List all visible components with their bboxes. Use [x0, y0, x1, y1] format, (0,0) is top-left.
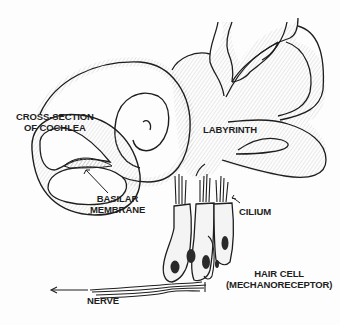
inner-ear-diagram: CROSS-SECTION OF COCHLEA BASILAR MEMBRAN…: [0, 0, 340, 325]
hair-cell-label-line1: HAIR CELL: [226, 268, 332, 279]
basilar-membrane-label: BASILAR MEMBRANE: [90, 193, 145, 215]
labyrinth-drawing: [172, 18, 327, 179]
cross-section-label-line1: CROSS-SECTION: [16, 111, 94, 122]
nerve-label: NERVE: [87, 295, 119, 306]
labyrinth-label: LABYRINTH: [203, 124, 257, 135]
basilar-label-line1: BASILAR: [90, 193, 145, 204]
cilium-label: CILIUM: [239, 206, 271, 217]
hair-cell-label-line2: (MECHANORECEPTOR): [226, 279, 332, 290]
nerve-drawing: [51, 282, 206, 298]
hair-cell-label: HAIR CELL (MECHANORECEPTOR): [226, 268, 332, 290]
cross-section-of-cochlea-label: CROSS-SECTION OF COCHLEA: [16, 111, 94, 133]
basilar-label-line2: MEMBRANE: [90, 204, 145, 215]
cross-section-label-line2: OF COCHLEA: [16, 122, 94, 133]
hair-cells-drawing: [163, 174, 240, 282]
